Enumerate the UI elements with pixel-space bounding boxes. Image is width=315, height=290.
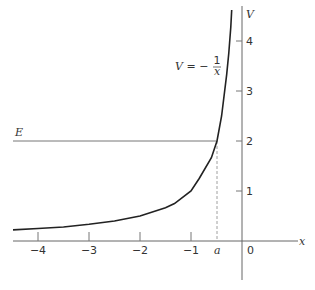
y-ticks bbox=[236, 41, 242, 191]
x-ticks bbox=[38, 232, 191, 241]
y-tick-label: 2 bbox=[246, 135, 253, 148]
curve-label: V = − 1 x bbox=[175, 54, 221, 78]
x-tick-label: −1 bbox=[183, 244, 199, 257]
y-axis-label: V bbox=[246, 8, 255, 21]
turning-point-label: a bbox=[214, 244, 221, 257]
x-axis-label: x bbox=[299, 235, 306, 248]
fraction-denominator: x bbox=[214, 65, 221, 78]
x-tick-label: −4 bbox=[30, 244, 46, 257]
curve-label-prefix: V = − bbox=[175, 60, 208, 73]
x-tick-label: −2 bbox=[132, 244, 148, 257]
potential-curve bbox=[13, 10, 232, 230]
potential-energy-plot: −4 −3 −2 −1 0 1 2 3 4 x V E a V = − 1 x bbox=[0, 0, 315, 290]
y-tick-label: 1 bbox=[246, 185, 253, 198]
x-tick-label: −3 bbox=[81, 244, 97, 257]
energy-label: E bbox=[14, 126, 23, 139]
y-tick-label: 4 bbox=[246, 35, 253, 48]
y-tick-label: 3 bbox=[246, 85, 253, 98]
origin-label: 0 bbox=[247, 244, 254, 257]
